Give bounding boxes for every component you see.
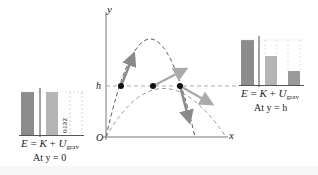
energy-bar-chart-yh bbox=[239, 36, 304, 87]
caption-yh: At y = h bbox=[254, 103, 287, 113]
eq-E: E bbox=[241, 87, 248, 99]
energy-equation-y0: E = K + Ugrav bbox=[21, 138, 79, 151]
eq-U-sub: grav bbox=[286, 93, 298, 101]
axes bbox=[103, 12, 228, 140]
eq-K: K bbox=[39, 137, 46, 149]
eq-plus: + bbox=[50, 137, 56, 149]
energy-equation-yh: E = K + Ugrav bbox=[241, 88, 299, 101]
height-label: h bbox=[96, 81, 101, 91]
velocity-arrow-steep-up bbox=[121, 56, 133, 86]
bar-K-yh bbox=[265, 56, 277, 85]
x-axis-label: x bbox=[229, 130, 234, 141]
eq-E: E bbox=[21, 137, 28, 149]
energy-bar-chart-y0 bbox=[19, 88, 84, 137]
bar-U-yh bbox=[288, 71, 300, 85]
origin-label: O bbox=[96, 133, 103, 143]
bar-K-y0 bbox=[46, 92, 58, 135]
bottom-margin bbox=[0, 166, 318, 175]
shallow-trajectory bbox=[106, 89, 226, 138]
point-shallow-apex bbox=[150, 83, 156, 89]
point-steep-ascending bbox=[118, 83, 124, 89]
zero-annotation: zero bbox=[61, 118, 69, 134]
bar-E-yh bbox=[241, 40, 254, 85]
eq-equals: = bbox=[250, 87, 256, 99]
bar-E-y0 bbox=[21, 92, 34, 135]
eq-K: K bbox=[259, 87, 266, 99]
eq-equals: = bbox=[30, 137, 36, 149]
y-axis-label: y bbox=[107, 4, 112, 15]
eq-U-sub: grav bbox=[66, 143, 78, 151]
eq-plus: + bbox=[270, 87, 276, 99]
caption-y0: At y = 0 bbox=[33, 153, 66, 163]
point-descending bbox=[177, 83, 183, 89]
